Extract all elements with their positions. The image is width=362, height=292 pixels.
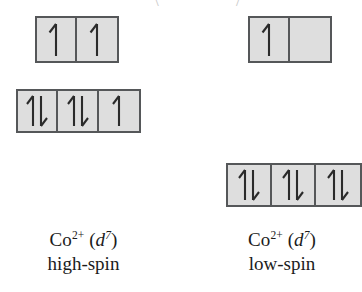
crop-artifact-right: / bbox=[236, 0, 241, 11]
orbital-cell[interactable] bbox=[58, 91, 98, 131]
low-spin-t2g-orbital-row bbox=[226, 163, 362, 207]
high-spin-caption: Co2+ (d7) high-spin bbox=[0, 228, 167, 275]
orbital-cell[interactable] bbox=[18, 91, 58, 131]
electron-arrow-pair bbox=[58, 91, 96, 131]
low-spin-caption: Co2+ (d7) low-spin bbox=[206, 228, 358, 275]
d-orbital-symbol: d bbox=[96, 229, 106, 250]
d-orbital-symbol: d bbox=[294, 229, 304, 250]
low-spin-ion-label: Co2+ (d7) bbox=[248, 229, 316, 250]
element-symbol: Co bbox=[50, 229, 72, 250]
crop-artifact-left: \ bbox=[154, 0, 159, 11]
open-paren: ( bbox=[283, 229, 294, 250]
high-spin-ion-label: Co2+ (d7) bbox=[50, 229, 118, 250]
high-spin-eg-orbital-row bbox=[35, 16, 119, 63]
ion-charge: 2+ bbox=[270, 229, 282, 241]
orbital-cell[interactable] bbox=[272, 165, 316, 205]
electron-arrow-pair bbox=[18, 91, 56, 131]
orbital-cell[interactable] bbox=[99, 91, 139, 131]
ion-charge: 2+ bbox=[72, 229, 84, 241]
orbital-cell[interactable] bbox=[228, 165, 272, 205]
orbital-cell[interactable] bbox=[316, 165, 360, 205]
orbital-cell[interactable] bbox=[37, 18, 77, 61]
orbital-cell-empty[interactable] bbox=[290, 18, 330, 61]
electron-arrow-pair bbox=[228, 165, 270, 205]
electron-arrow-pair bbox=[316, 165, 360, 205]
open-paren: ( bbox=[84, 229, 95, 250]
element-symbol: Co bbox=[248, 229, 270, 250]
low-spin-state-label: low-spin bbox=[206, 252, 358, 275]
orbital-cell[interactable] bbox=[250, 18, 290, 61]
electron-arrow-up bbox=[37, 18, 75, 61]
high-spin-t2g-orbital-row bbox=[16, 89, 141, 133]
high-spin-state-label: high-spin bbox=[0, 252, 167, 275]
close-paren: ) bbox=[310, 229, 316, 250]
electron-arrow-up bbox=[99, 91, 139, 131]
electron-arrow-up bbox=[77, 18, 117, 61]
electron-arrow-up bbox=[250, 18, 288, 61]
electron-arrow-pair bbox=[272, 165, 314, 205]
low-spin-eg-orbital-row bbox=[248, 16, 332, 63]
orbital-cell[interactable] bbox=[77, 18, 117, 61]
close-paren: ) bbox=[111, 229, 117, 250]
